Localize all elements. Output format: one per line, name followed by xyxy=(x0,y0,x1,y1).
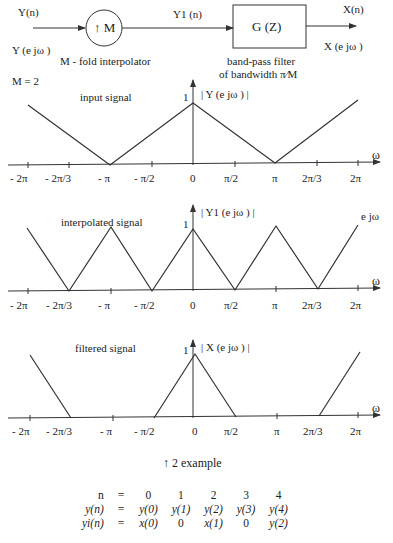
filter-label: G (Z) xyxy=(252,19,281,35)
plot3-title: filtered signal xyxy=(75,342,136,354)
tick-zero: 0 xyxy=(192,425,198,437)
plot2-ylabel: | Y1 (e jω ) | xyxy=(201,206,255,218)
filter-desc-line1: band-pass filter xyxy=(227,55,295,67)
cell: 0 xyxy=(230,516,263,530)
tick-neg-2pi-3: - 2π/3 xyxy=(46,425,72,437)
tick-2pi-3: 2π/3 xyxy=(302,172,322,184)
tick-2pi: 2π xyxy=(350,425,361,437)
cell: y(2) xyxy=(262,516,295,530)
interpolator-label: M - fold interpolator xyxy=(60,55,151,67)
plot2-corner-label: e jω xyxy=(361,210,379,222)
plot2-tick-labels: - 2π - 2π/3 - π - π/2 0 π/2 π 2π/3 2π xyxy=(0,299,393,313)
cell: 0 xyxy=(165,516,198,530)
tick-2pi: 2π xyxy=(350,172,361,184)
plot2-x-axis xyxy=(8,288,380,291)
cell: 1 xyxy=(165,488,198,502)
tick-2pi-3: 2π/3 xyxy=(302,299,322,311)
parameter-label: M = 2 xyxy=(12,75,39,87)
tick-pi-2: π/2 xyxy=(224,299,238,311)
plot3-tick-labels: - 2π - 2π/3 - π - π/2 0 π/2 π 2π/3 2π xyxy=(0,425,393,439)
plot3-center-triangle xyxy=(154,354,236,418)
tick-neg-pi: - π xyxy=(98,172,110,184)
cell: y(1) xyxy=(165,502,198,516)
equals-sign: = xyxy=(110,488,133,502)
plot1-omega-label: ω xyxy=(372,148,380,163)
tick-2pi-3: 2π/3 xyxy=(303,425,323,437)
plot3-x-axis xyxy=(8,415,380,418)
intermediate-signal-label: Y1 (n) xyxy=(173,8,202,20)
output-time-label: X(n) xyxy=(343,3,364,15)
row-label: y(n) xyxy=(75,502,110,516)
input-time-label: Y(n) xyxy=(18,6,39,18)
equals-sign: = xyxy=(110,516,133,530)
table-row: y(n) = y(0) y(1) y(2) y(3) y(4) xyxy=(75,502,295,516)
cell: 3 xyxy=(230,488,263,502)
tick-neg-2pi-3: - 2π/3 xyxy=(46,299,72,311)
tick-pi: π xyxy=(272,172,278,184)
plot1-title: input signal xyxy=(80,91,132,103)
interpolator-symbol: ↑ M xyxy=(94,20,115,36)
plot1-x-axis xyxy=(8,162,380,165)
cell: 0 xyxy=(132,488,165,502)
tick-neg-2pi-3: - 2π/3 xyxy=(45,172,71,184)
input-freq-label: Y (e jω ) xyxy=(12,44,50,56)
tick-zero: 0 xyxy=(190,172,196,184)
tick-zero: 0 xyxy=(190,299,196,311)
filter-desc-line2: of bandwidth π⁄M xyxy=(219,68,297,80)
table-row: n = 0 1 2 3 4 xyxy=(75,488,295,502)
tick-pi: π xyxy=(272,299,278,311)
tick-pi: π xyxy=(274,425,280,437)
table-row: yi(n) = x(0) 0 x(1) 0 y(2) xyxy=(75,516,295,530)
tick-neg-2pi: - 2π xyxy=(12,425,29,437)
plot3-right-segment xyxy=(319,352,360,416)
plot2-title: interpolated signal xyxy=(61,216,143,228)
cell: y(4) xyxy=(262,502,295,516)
tick-neg-pi-2: - π/2 xyxy=(134,425,155,437)
tick-neg-pi-2: - π/2 xyxy=(134,172,155,184)
row-label: n xyxy=(75,488,110,502)
plot1-peak-label: 1 xyxy=(183,91,189,103)
cell: 2 xyxy=(197,488,230,502)
tick-pi-2: π/2 xyxy=(224,172,238,184)
tick-neg-2pi: - 2π xyxy=(10,172,27,184)
equals-sign: = xyxy=(110,502,133,516)
plot2-omega-label: ω xyxy=(372,274,380,289)
tick-neg-pi-2: - π/2 xyxy=(134,299,155,311)
plot3-peak-label: 1 xyxy=(183,344,189,356)
cell: 4 xyxy=(262,488,295,502)
cell: y(2) xyxy=(197,502,230,516)
cell: y(0) xyxy=(132,502,165,516)
tick-neg-pi: - π xyxy=(100,425,112,437)
tick-pi-2: π/2 xyxy=(224,425,238,437)
row-label: yi(n) xyxy=(75,516,110,530)
plot3-ylabel: | X (e jω ) | xyxy=(201,341,250,353)
tick-2pi: 2π xyxy=(350,299,361,311)
cell: x(1) xyxy=(197,516,230,530)
plot2-peak-label: 1 xyxy=(183,218,189,230)
cell: y(3) xyxy=(230,502,263,516)
plot1-tick-labels: - 2π - 2π/3 - π - π/2 0 π/2 π 2π/3 2π xyxy=(0,172,393,186)
example-title: ↑ 2 example xyxy=(163,456,222,471)
plot1-ylabel: | Y (e jω ) | xyxy=(201,88,249,100)
cell: x(0) xyxy=(132,516,165,530)
example-table: n = 0 1 2 3 4 y(n) = y(0) y(1) y(2) y(3)… xyxy=(75,488,295,530)
tick-neg-2pi: - 2π xyxy=(10,299,27,311)
tick-neg-pi: - π xyxy=(98,299,110,311)
plot3-omega-label: ω xyxy=(372,401,380,416)
plot3-left-segment xyxy=(30,355,71,418)
output-freq-label: X (e jω ) xyxy=(324,40,363,52)
